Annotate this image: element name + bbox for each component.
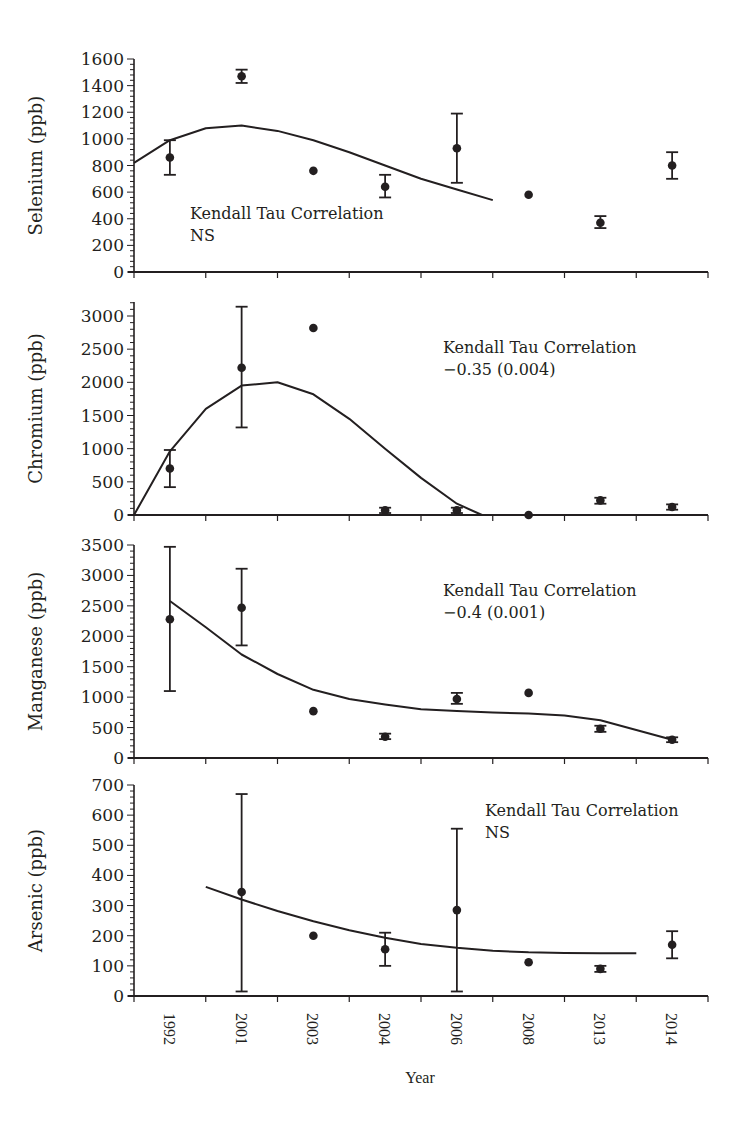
data-point [453, 906, 462, 915]
x-tick-label: 2013 [591, 1013, 608, 1045]
y-tick-label: 300 [92, 896, 124, 916]
data-point [668, 940, 677, 949]
panel-chromium: 050010001500200025003000Chromium (ppb)Ke… [25, 302, 708, 525]
y-axis-title: Selenium (ppb) [25, 96, 46, 236]
x-axis-title: Year [405, 1069, 435, 1086]
data-point [166, 464, 175, 473]
trend-line [134, 382, 482, 515]
data-point [596, 724, 605, 733]
data-point [524, 689, 533, 698]
data-point [453, 506, 462, 515]
y-tick-label: 1200 [81, 102, 124, 122]
y-tick-label: 1000 [81, 687, 124, 707]
y-tick-label: 1500 [81, 406, 124, 426]
data-point [596, 965, 605, 974]
kendall-tau-annotation: Kendall Tau CorrelationNS [190, 204, 384, 245]
x-tick-label: 2004 [376, 1013, 393, 1045]
data-point [453, 144, 462, 153]
panel-manganese: 0500100015002000250030003500Manganese (p… [25, 535, 708, 768]
x-tick-label: 2008 [520, 1013, 537, 1045]
y-tick-label: 3000 [81, 565, 124, 585]
y-tick-label: 1000 [81, 129, 124, 149]
y-tick-label: 500 [92, 835, 124, 855]
data-point [596, 218, 605, 227]
data-point [524, 958, 533, 967]
panel-arsenic: 0100200300400500600700Arsenic (ppb)Kenda… [25, 775, 708, 1006]
data-point [668, 161, 677, 170]
y-tick-label: 600 [92, 182, 124, 202]
y-tick-label: 500 [92, 472, 124, 492]
trend-line [170, 601, 672, 740]
y-tick-label: 0 [113, 986, 124, 1006]
y-tick-label: 200 [92, 926, 124, 946]
x-tick-label: 2014 [663, 1013, 680, 1045]
data-point [237, 888, 246, 897]
y-tick-label: 400 [92, 209, 124, 229]
data-point [453, 695, 462, 704]
data-point [381, 183, 390, 192]
y-tick-label: 2500 [81, 339, 124, 359]
y-tick-label: 600 [92, 805, 124, 825]
y-tick-label: 2000 [81, 626, 124, 646]
y-tick-label: 1500 [81, 657, 124, 677]
data-point [381, 732, 390, 741]
y-tick-label: 2500 [81, 596, 124, 616]
y-axis-title: Arsenic (ppb) [25, 829, 46, 953]
data-point [524, 511, 533, 520]
x-tick-label: 2006 [448, 1013, 465, 1045]
y-tick-label: 1600 [81, 49, 124, 69]
y-tick-label: 3500 [81, 535, 124, 555]
data-point [309, 324, 318, 333]
data-point [237, 72, 246, 81]
y-tick-label: 0 [113, 262, 124, 282]
data-point [668, 503, 677, 512]
data-point [309, 707, 318, 716]
x-tick-label: 2003 [304, 1013, 321, 1045]
data-point [237, 363, 246, 372]
y-tick-label: 0 [113, 748, 124, 768]
data-point [166, 615, 175, 624]
multi-panel-chart: 02004006008001000120014001600Selenium (p… [0, 0, 747, 1124]
kendall-tau-annotation: Kendall Tau Correlation−0.35 (0.004) [443, 338, 637, 379]
trend-line [134, 126, 493, 201]
y-tick-label: 1400 [81, 76, 124, 96]
y-tick-label: 0 [113, 505, 124, 525]
kendall-tau-annotation: Kendall Tau CorrelationNS [485, 801, 679, 842]
data-point [524, 190, 533, 199]
x-axis-tick-labels: 19922001200320042006200820132014 [161, 1013, 680, 1045]
data-point [309, 931, 318, 940]
x-tick-label: 2001 [233, 1013, 250, 1045]
y-tick-label: 200 [92, 235, 124, 255]
y-tick-label: 400 [92, 865, 124, 885]
panel-selenium: 02004006008001000120014001600Selenium (p… [25, 49, 708, 282]
y-axis-title: Manganese (ppb) [25, 572, 46, 731]
y-tick-label: 2000 [81, 372, 124, 392]
data-point [309, 167, 318, 176]
data-point [668, 735, 677, 744]
data-point [381, 506, 390, 515]
y-tick-label: 1000 [81, 439, 124, 459]
data-point [237, 603, 246, 612]
y-axis-title: Chromium (ppb) [25, 333, 46, 484]
y-tick-label: 3000 [81, 306, 124, 326]
y-tick-label: 100 [92, 956, 124, 976]
data-point [166, 153, 175, 162]
data-point [596, 496, 605, 505]
trend-line [206, 887, 637, 953]
y-tick-label: 700 [92, 775, 124, 795]
data-point [381, 945, 390, 954]
x-tick-label: 1992 [161, 1013, 178, 1045]
kendall-tau-annotation: Kendall Tau Correlation−0.4 (0.001) [443, 581, 637, 622]
y-tick-label: 800 [92, 156, 124, 176]
y-tick-label: 500 [92, 718, 124, 738]
